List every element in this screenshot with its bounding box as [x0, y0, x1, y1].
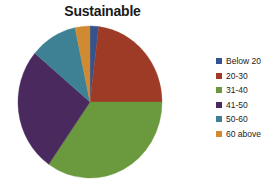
legend-label: 50-60	[226, 115, 248, 124]
pie-plot-area	[16, 24, 176, 180]
legend-swatch-20-30	[216, 73, 222, 79]
legend-label: 31-40	[226, 86, 248, 95]
pie-chart-figure: Sustainable Below 2020-3031-4041-5050-60…	[0, 0, 276, 186]
chart-title: Sustainable	[0, 3, 205, 19]
legend-item-20-30[interactable]: 20-30	[216, 69, 276, 84]
legend-item-50-60[interactable]: 50-60	[216, 112, 276, 127]
legend-item-below-20[interactable]: Below 20	[216, 54, 276, 69]
legend-item-31-40[interactable]: 31-40	[216, 83, 276, 98]
legend-swatch-41-50	[216, 102, 222, 108]
pie-svg	[16, 24, 176, 180]
pie-slice-20-30[interactable]	[90, 27, 162, 102]
pie-slice-group	[18, 26, 162, 178]
legend-item-60-above[interactable]: 60 above	[216, 127, 276, 142]
legend-swatch-50-60	[216, 116, 222, 122]
legend-swatch-below-20	[216, 58, 222, 64]
legend-swatch-60-above	[216, 131, 222, 137]
legend-label: 41-50	[226, 101, 248, 110]
legend-label: 20-30	[226, 72, 248, 81]
legend-swatch-31-40	[216, 87, 222, 93]
legend-item-41-50[interactable]: 41-50	[216, 98, 276, 113]
chart-legend: Below 2020-3031-4041-5050-6060 above	[216, 54, 276, 141]
legend-label: Below 20	[226, 57, 261, 66]
legend-label: 60 above	[226, 130, 261, 139]
